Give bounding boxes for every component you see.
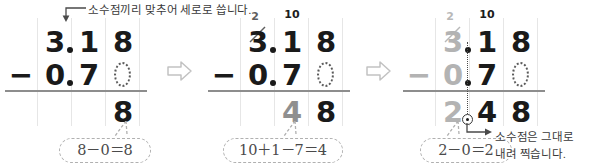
result-hundredths-2: 8 bbox=[309, 94, 343, 130]
subtraction-rule-2 bbox=[208, 90, 350, 92]
result-ones-1 bbox=[38, 94, 72, 130]
subtrahend-decimal-point-2 bbox=[270, 80, 276, 86]
subtraction-rule-3 bbox=[403, 90, 545, 92]
subtrahend-ones-1: 0 bbox=[38, 57, 72, 93]
minuend-row-2: 3 1 8 bbox=[205, 24, 355, 60]
minuend-hundredths-3: 8 bbox=[504, 24, 538, 60]
borrow-mark-ones-3: 2 bbox=[440, 10, 460, 23]
minuend-decimal-point-1 bbox=[67, 47, 73, 53]
subtrahend-decimal-point-1 bbox=[67, 80, 73, 86]
subtrahend-tenths-1: 7 bbox=[72, 57, 106, 93]
explanation-bubble-2: 10＋1－7＝4 bbox=[223, 138, 343, 163]
result-hundredths-3: 8 bbox=[504, 94, 538, 130]
minuend-tenths-3: 1 bbox=[470, 24, 504, 60]
borrow-mark-tenths-3: 10 bbox=[470, 8, 504, 21]
minuend-tenths-1: 1 bbox=[72, 24, 106, 60]
result-ones-2 bbox=[241, 94, 275, 130]
decimal-alignment-guide bbox=[467, 42, 468, 116]
borrow-mark-ones-2: 2 bbox=[245, 10, 265, 23]
side-leader-line bbox=[466, 122, 494, 144]
side-annotation-line-1: 소수점은 그대로 bbox=[495, 129, 574, 146]
minuend-ones-2: 3 bbox=[241, 24, 275, 60]
step-panel-1: 3 1 8 − 0 7 0 8 8－0＝8 bbox=[2, 0, 152, 167]
result-tenths-1 bbox=[72, 94, 106, 130]
minuend-ones-3: 3 bbox=[436, 24, 470, 60]
minuend-hundredths-1: 8 bbox=[106, 24, 140, 60]
subtrahend-tenths-3: 7 bbox=[470, 57, 504, 93]
minuend-row-1: 3 1 8 bbox=[2, 24, 152, 60]
side-annotation-line-2: 내려 찍습니다. bbox=[495, 146, 574, 163]
subtrahend-ones-2: 0 bbox=[241, 57, 275, 93]
implied-zero-placeholder-2 bbox=[317, 62, 334, 87]
explanation-bubble-1: 8－0＝8 bbox=[59, 138, 151, 163]
step-arrow-right-icon-1 bbox=[167, 60, 193, 82]
minuend-tenths-2: 1 bbox=[275, 24, 309, 60]
side-annotation-text: 소수점은 그대로 내려 찍습니다. bbox=[495, 129, 574, 163]
minus-operator-1: − bbox=[8, 57, 34, 93]
subtrahend-ones-3: 0 bbox=[436, 57, 470, 93]
subtraction-rule-1 bbox=[5, 90, 147, 92]
minus-operator-3: − bbox=[406, 57, 432, 93]
minuend-ones-1: 3 bbox=[38, 24, 72, 60]
borrow-mark-tenths-2: 10 bbox=[275, 8, 309, 21]
minuend-decimal-point-2 bbox=[270, 47, 276, 53]
worksheet-canvas: 소수점끼리 맞추어 세로로 씁니다. 3 1 8 − 0 7 0 8 bbox=[0, 0, 597, 167]
step-panel-2: 2 10 3 1 8 − 0 7 0 4 8 bbox=[205, 0, 355, 167]
minus-operator-2: − bbox=[211, 57, 237, 93]
minuend-row-3: 3 1 8 bbox=[400, 24, 550, 60]
minuend-hundredths-2: 8 bbox=[309, 24, 343, 60]
implied-zero-placeholder-1 bbox=[114, 62, 131, 87]
subtrahend-tenths-2: 7 bbox=[275, 57, 309, 93]
step-arrow-right-icon-2 bbox=[366, 60, 392, 82]
implied-zero-placeholder-3 bbox=[512, 62, 529, 87]
